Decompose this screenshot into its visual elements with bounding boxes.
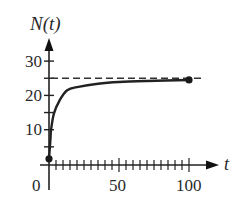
axes: [40, 50, 210, 190]
endpoint-dot: [185, 76, 192, 83]
y-axis-arrow-icon: [45, 38, 54, 51]
x-tick-label-100: 100: [176, 176, 202, 195]
endpoint-dot: [45, 155, 52, 162]
x-axis-arrow-icon: [206, 161, 219, 170]
y-tick-label-30: 30: [25, 52, 42, 71]
x-tick-label-0: 0: [32, 176, 41, 195]
y-tick-label-20: 20: [25, 86, 42, 105]
x-tick-label-50: 50: [109, 176, 126, 195]
n-of-t-curve: [49, 80, 189, 159]
y-tick-label-10: 10: [25, 120, 42, 139]
x-axis-label: t: [224, 154, 230, 174]
y-axis-label: N(t): [29, 13, 61, 35]
chart: N(t) t 0 50 100 10 20 30: [0, 0, 238, 202]
